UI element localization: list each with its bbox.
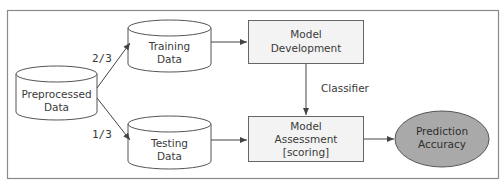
assessment-label-line2: Assessment <box>275 133 338 145</box>
accuracy-label-line2: Accuracy <box>418 138 466 150</box>
edge-to-training-label: 2/3 <box>92 52 112 65</box>
development-label-line1: Model <box>290 28 322 40</box>
edge-classifier-label: Classifier <box>321 82 370 94</box>
testing-label-line1: Testing <box>150 137 188 149</box>
testing-label-line2: Data <box>157 150 182 162</box>
testing-data-node: Testing Data <box>128 116 211 169</box>
model-development-node: Model Development <box>249 21 364 64</box>
training-data-node: Training Data <box>128 20 211 72</box>
workflow-diagram: Preprocessed Data Training Data Testing … <box>0 0 504 184</box>
edge-to-testing-label: 1/3 <box>92 128 112 141</box>
prediction-accuracy-node: Prediction Accuracy <box>395 111 489 167</box>
assessment-label-line3: [scoring] <box>283 146 329 158</box>
training-label-line1: Training <box>148 40 190 52</box>
preprocessed-data-node: Preprocessed Data <box>16 66 97 120</box>
assessment-label-line1: Model <box>290 120 322 132</box>
preprocessed-label-line1: Preprocessed <box>21 88 91 100</box>
preprocessed-label-line2: Data <box>44 101 69 113</box>
model-assessment-node: Model Assessment [scoring] <box>249 117 364 162</box>
training-label-line2: Data <box>157 53 182 65</box>
development-label-line2: Development <box>271 42 342 54</box>
accuracy-label-line1: Prediction <box>416 125 468 137</box>
